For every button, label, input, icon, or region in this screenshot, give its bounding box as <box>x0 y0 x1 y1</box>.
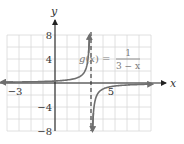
function-graph: yx−3584−4−8 g(x) =13 − x <box>0 0 184 144</box>
axes <box>0 20 166 131</box>
svg-text:3 − x: 3 − x <box>116 61 140 71</box>
svg-text:4: 4 <box>46 54 52 65</box>
svg-text:8: 8 <box>46 30 52 41</box>
svg-text:5: 5 <box>108 86 114 97</box>
svg-text:x: x <box>170 77 177 90</box>
svg-text:−4: −4 <box>37 102 52 113</box>
svg-text:y: y <box>50 5 58 18</box>
svg-text:g(x) =: g(x) = <box>79 53 110 64</box>
svg-text:1: 1 <box>125 48 131 58</box>
svg-text:−8: −8 <box>37 126 52 137</box>
svg-text:−3: −3 <box>8 86 23 97</box>
